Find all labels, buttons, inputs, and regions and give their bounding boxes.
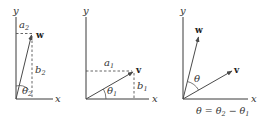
y-axis-label: y (12, 5, 19, 16)
angle-difference-caption: θ = θ2 − θ1 (196, 105, 249, 118)
vector-w-label: w (194, 25, 203, 35)
x-axis-label: x (152, 93, 158, 104)
angle-theta-label: θ (194, 73, 200, 84)
panel-w-components: y x w a2 b2 θ2 (12, 5, 61, 104)
vector-angle-diagram: y x w a2 b2 θ2 y x v a1 b1 θ1 y x w v θ (0, 0, 262, 125)
component-b2-label: b2 (35, 64, 46, 77)
component-a2-label: a2 (19, 19, 29, 32)
vector-w-label: w (35, 30, 44, 40)
component-b1-label: b1 (137, 80, 148, 93)
angle-theta1-label: θ1 (107, 85, 117, 98)
angle-theta2-label: θ2 (22, 85, 32, 98)
x-axis-label: x (55, 93, 61, 104)
vector-v (183, 71, 232, 99)
y-axis-label: y (82, 5, 89, 16)
vector-w (183, 37, 199, 99)
vector-v-label: v (135, 65, 142, 75)
panel-angle-between: y x w v θ θ = θ2 − θ1 (179, 5, 257, 118)
component-a1-label: a1 (104, 57, 114, 70)
angle-theta1-arc (103, 89, 106, 99)
vector-v-label: v (233, 65, 240, 75)
y-axis-label: y (179, 5, 186, 16)
x-axis-label: x (251, 93, 257, 104)
panel-v-components: y x v a1 b1 θ1 (82, 5, 158, 104)
